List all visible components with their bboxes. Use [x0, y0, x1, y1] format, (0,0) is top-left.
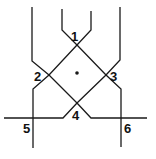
node-label-4: 4 — [72, 108, 80, 123]
path-left-outer — [32, 7, 147, 118]
node-label-5: 5 — [23, 121, 30, 136]
center-dot — [75, 71, 79, 75]
node-label-3: 3 — [110, 69, 117, 84]
node-label-1: 1 — [71, 29, 78, 44]
node-label-2: 2 — [34, 69, 41, 84]
node-label-6: 6 — [124, 121, 131, 136]
path-inner-right — [33, 11, 91, 148]
crossing-diagram: 1 2 3 4 5 6 — [0, 0, 156, 159]
